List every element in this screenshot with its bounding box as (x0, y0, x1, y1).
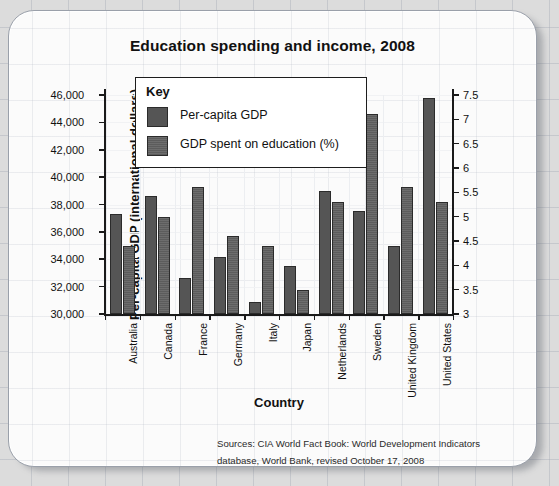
x-axis-category-label: Netherlands (336, 323, 348, 380)
y-axis-right-tick-label: 5.5 (463, 186, 478, 198)
x-axis-category-label: United Kingdom (406, 323, 418, 398)
bar-group (418, 95, 453, 314)
bar-gdp-spent-on-education (158, 217, 170, 314)
y-axis-left-tick-label: 44,000 (50, 116, 84, 128)
y-axis-right-tick-label: 3.5 (463, 284, 478, 296)
y-axis-right-title: GDP spent on education (%) (491, 95, 537, 314)
legend-title: Key (146, 84, 170, 99)
x-axis-tick (244, 314, 245, 320)
bar-gdp-spent-on-education (297, 290, 309, 314)
chart-title: Education spending and income, 2008 (9, 37, 536, 55)
legend-swatch (147, 107, 168, 127)
y-axis-right-tick-label: 6 (463, 162, 469, 174)
y-axis-right-tick (452, 192, 459, 194)
x-axis-tick (175, 314, 176, 320)
bar-gdp-spent-on-education (401, 187, 413, 314)
y-axis-left-tick-label: 36,000 (50, 226, 84, 238)
y-axis-right-tick (452, 289, 459, 291)
sources-line-1: Sources: CIA World Fact Book: World Deve… (217, 435, 517, 452)
x-axis-tick (349, 314, 350, 320)
bar-gdp-spent-on-education (436, 202, 448, 314)
y-axis-left-tick-label: 34,000 (50, 253, 84, 265)
bar-group (383, 95, 418, 314)
x-axis-category-label: Canada (162, 323, 174, 360)
bar-per-capita-gdp (214, 257, 226, 314)
legend-swatch (147, 136, 168, 156)
x-axis-category-label: Germany (232, 323, 244, 366)
x-axis-tick (279, 314, 280, 320)
x-axis-tick (383, 314, 384, 320)
y-axis-right-tick (452, 94, 459, 96)
bar-per-capita-gdp (249, 302, 261, 314)
bar-per-capita-gdp (388, 246, 400, 314)
x-axis-category-label: Japan (301, 323, 313, 352)
y-axis-right-tick-label: 5 (463, 211, 469, 223)
chart-legend: Key Per-capita GDPGDP spent on education… (135, 77, 367, 168)
x-axis-tick (209, 314, 210, 320)
y-axis-left-tick-label: 40,000 (50, 171, 84, 183)
y-axis-right-tick (452, 119, 459, 121)
sources-line-2: database, World Bank, revised October 17… (217, 452, 517, 467)
y-axis-right-tick-label: 7 (463, 113, 469, 125)
bar-gdp-spent-on-education (262, 246, 274, 314)
y-axis-left-tick-label: 42,000 (50, 144, 84, 156)
x-axis-category-label: Italy (267, 323, 279, 342)
y-axis-right-tick (452, 216, 459, 218)
bar-per-capita-gdp (179, 278, 191, 314)
bar-per-capita-gdp (319, 191, 331, 314)
legend-label: Per-capita GDP (180, 108, 268, 122)
y-axis-left-tick-label: 46,000 (50, 89, 84, 101)
y-axis-right-tick (452, 240, 459, 242)
bar-gdp-spent-on-education (123, 246, 135, 314)
sources-note: Sources: CIA World Fact Book: World Deve… (217, 435, 517, 467)
y-axis-left-tick-label: 38,000 (50, 199, 84, 211)
x-axis-tick (105, 314, 106, 320)
y-axis-left-tick-label: 30,000 (50, 308, 84, 320)
bar-gdp-spent-on-education (332, 202, 344, 314)
x-axis-tick (453, 314, 454, 320)
y-axis-right-tick-label: 4 (463, 259, 469, 271)
bar-per-capita-gdp (110, 214, 122, 314)
bar-gdp-spent-on-education (227, 236, 239, 314)
x-axis-category-label: Sweden (371, 323, 383, 361)
y-axis-right-tick-label: 4.5 (463, 235, 478, 247)
x-axis-title: Country (105, 395, 453, 410)
x-axis-category-label: Australia (127, 323, 139, 364)
x-axis-tick (418, 314, 419, 320)
bar-per-capita-gdp (353, 211, 365, 314)
y-axis-right-tick (452, 167, 459, 169)
x-axis-category-label: United States (441, 323, 453, 386)
bar-gdp-spent-on-education (366, 114, 378, 314)
legend-label: GDP spent on education (%) (180, 137, 339, 151)
x-axis-tick (140, 314, 141, 320)
y-axis-left-tick-label: 32,000 (50, 281, 84, 293)
x-axis-category-label: France (197, 323, 209, 356)
bar-gdp-spent-on-education (192, 187, 204, 314)
bar-per-capita-gdp (145, 196, 157, 314)
y-axis-right-tick-label: 6.5 (463, 138, 478, 150)
y-axis-right-tick-label: 7.5 (463, 89, 478, 101)
chart-card: Education spending and income, 2008 Per-… (8, 10, 537, 467)
y-axis-right-tick (452, 143, 459, 145)
bar-per-capita-gdp (423, 98, 435, 314)
bar-per-capita-gdp (284, 266, 296, 314)
y-axis-right-tick-label: 3 (463, 308, 469, 320)
x-axis-tick (314, 314, 315, 320)
y-axis-right-tick (452, 265, 459, 267)
